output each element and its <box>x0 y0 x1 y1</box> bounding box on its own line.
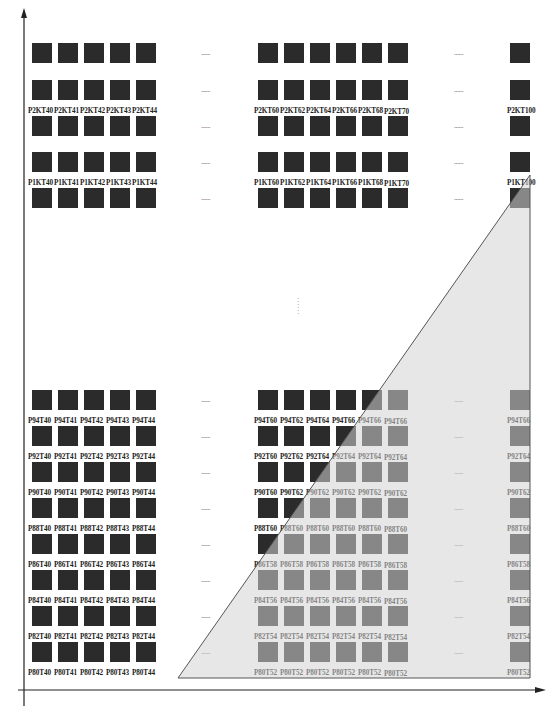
y-axis-arrow-icon <box>21 8 27 18</box>
x-axis-arrow-icon <box>535 687 546 693</box>
diagram-overlay <box>0 0 559 713</box>
triangular-region <box>178 175 530 678</box>
diagram-canvas: ............P2KT40P2KT41P2KT42P2KT43P2KT… <box>0 0 559 713</box>
